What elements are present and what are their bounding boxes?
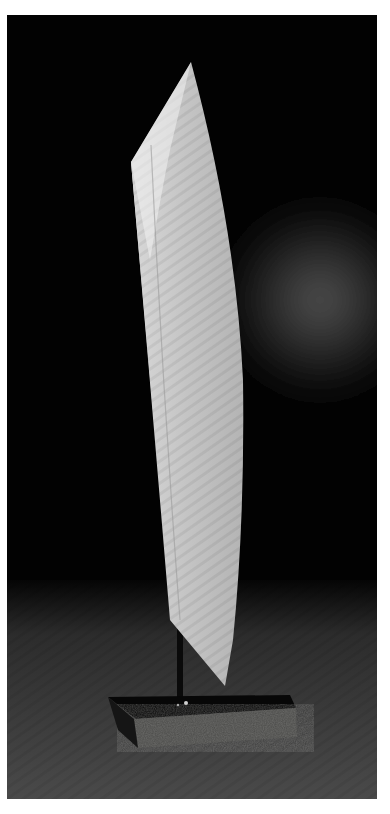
sculpture-photo: Tall white curved blade sculpture mounte… — [7, 15, 377, 799]
pin-highlight — [184, 701, 188, 705]
photo-canvas — [7, 15, 377, 799]
